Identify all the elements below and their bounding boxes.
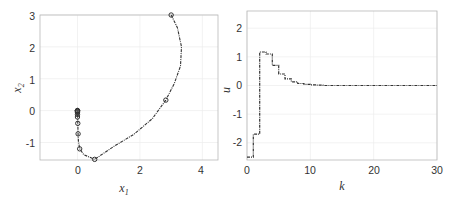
left-xtick-2: 2 [137, 164, 143, 176]
left-ytick-2: 2 [29, 42, 35, 54]
left-ylabel: x2 [10, 83, 26, 93]
right-control-stairs [247, 52, 437, 157]
left-xlabel: x1 [118, 181, 128, 197]
right-plot-panel: 0 10 20 30 2 1 0 -1 -2 k u [219, 11, 443, 193]
right-ytick-neg1: -1 [233, 108, 242, 120]
left-trajectory-line [78, 15, 182, 159]
right-xtick-10: 10 [304, 164, 316, 176]
left-xtick-0: 0 [75, 164, 81, 176]
left-ytick-neg1: -1 [26, 137, 35, 149]
right-ytick-0: 0 [236, 79, 242, 91]
right-ylabel: u [219, 87, 233, 93]
right-ytick-neg2: -2 [233, 136, 242, 148]
left-trajectory-markers [75, 13, 173, 162]
left-ytick-0: 0 [29, 105, 35, 117]
left-plot-panel: 0 2 4 3 2 1 0 -1 x1 x2 [10, 10, 218, 197]
chart-canvas: 0 2 4 3 2 1 0 -1 x1 x2 0 10 20 30 2 1 0 … [0, 0, 454, 198]
left-ytick-1: 1 [29, 74, 35, 86]
left-xtick-4: 4 [198, 164, 204, 176]
right-ytick-2: 2 [236, 22, 242, 34]
left-ytick-3: 3 [29, 10, 35, 22]
right-xlabel: k [339, 179, 345, 193]
figure: 0 2 4 3 2 1 0 -1 x1 x2 0 10 20 30 2 1 0 … [0, 0, 454, 198]
right-ytick-1: 1 [236, 51, 242, 63]
left-axes-box [40, 15, 218, 160]
left-grid [40, 15, 218, 160]
right-xtick-0: 0 [244, 164, 250, 176]
right-xtick-30: 30 [431, 164, 443, 176]
right-xtick-20: 20 [368, 164, 380, 176]
